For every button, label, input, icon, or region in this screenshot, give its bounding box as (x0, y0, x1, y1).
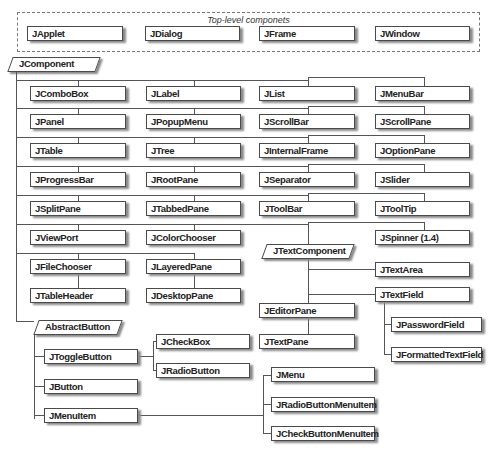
node-jbutton: JButton (44, 379, 138, 394)
node-jformattedtextfield: JFormattedTextField (391, 347, 482, 362)
connector (308, 269, 376, 270)
top-level-title: Top-level componets (18, 15, 479, 25)
node-jcomponent: JComponent (10, 57, 98, 72)
node-jmenubar: JMenuBar (375, 86, 470, 101)
node-jtogglebutton: JToggleButton (44, 349, 138, 364)
connector (308, 135, 424, 136)
connector (308, 106, 424, 107)
connector (153, 341, 154, 371)
node-jprogressbar: JProgressBar (30, 172, 126, 187)
node-jtabbedpane: JTabbedPane (146, 201, 241, 216)
node-jradiobuttonmenuitem: JRadioButtonMenuItem (271, 397, 375, 412)
node-jwindow: JWindow (375, 26, 470, 41)
connector (78, 80, 184, 81)
node-jspinner: JSpinner (1.4) (375, 230, 470, 245)
connector (16, 137, 184, 138)
connector (34, 386, 44, 387)
connector (184, 195, 308, 196)
node-jcheckbuttonmenuitem: JCheckButtonMenuItem (271, 426, 375, 441)
node-jcolorchooser: JColorChooser (146, 230, 241, 245)
connector (34, 334, 35, 419)
node-jtable: JTable (30, 143, 126, 158)
connector (16, 72, 17, 321)
node-jviewport: JViewPort (30, 230, 126, 245)
connector (263, 433, 271, 434)
node-joptionpane: JOptionPane (375, 143, 470, 158)
node-jseparator: JSeparator (259, 172, 355, 187)
node-jscrollpane: JScrollPane (375, 114, 470, 129)
node-jtextarea: JTextArea (375, 262, 470, 277)
connector (424, 164, 425, 172)
connector (194, 274, 195, 288)
node-jrootpane: JRootPane (146, 172, 241, 187)
node-abstractbutton: AbstractButton (36, 320, 120, 335)
node-jdesktoppane: JDesktopPane (146, 288, 241, 303)
node-jcheckbox: JCheckBox (156, 334, 250, 349)
connector (384, 302, 385, 355)
connector (184, 80, 308, 81)
connector (424, 193, 425, 201)
connector (16, 166, 184, 167)
connector (384, 324, 391, 325)
node-jsplitpane: JSplitPane (30, 201, 126, 216)
node-jtextfield: JTextField (375, 287, 470, 302)
connector (424, 135, 425, 143)
node-jmenuitem: JMenuItem (44, 408, 138, 423)
connector (263, 404, 271, 405)
node-jlist: JList (259, 86, 355, 101)
connector (424, 77, 425, 86)
node-jinternalframe: JInternalFrame (259, 143, 355, 158)
connector (184, 137, 308, 138)
node-jcombobox: JComboBox (30, 86, 126, 101)
connector (16, 195, 184, 196)
node-jpopupmenu: JPopupMenu (146, 114, 241, 129)
connector (34, 356, 44, 357)
node-japplet: JApplet (27, 26, 123, 41)
connector (263, 375, 271, 376)
connector (34, 415, 44, 416)
node-jscrollbar: JScrollBar (259, 114, 355, 129)
connector (184, 108, 308, 109)
node-jslider: JSlider (375, 172, 470, 187)
connector (16, 224, 184, 225)
connector (16, 321, 34, 322)
node-jtextpane: JTextPane (259, 334, 355, 349)
connector (308, 294, 376, 295)
connector (138, 415, 263, 416)
connector (308, 193, 424, 194)
node-jeditorpane: JEditorPane (259, 303, 355, 318)
node-jmenu: JMenu (271, 367, 375, 382)
node-jtextcomponent: JTextComponent (264, 244, 352, 259)
connector (138, 356, 153, 357)
node-jfilechooser: JFileChooser (30, 259, 126, 274)
node-jlabel: JLabel (146, 86, 241, 101)
connector (424, 106, 425, 114)
node-jframe: JFrame (259, 26, 355, 41)
connector (424, 222, 425, 230)
connector (308, 222, 424, 223)
connector (384, 354, 391, 355)
connector (78, 274, 79, 288)
node-jradiobutton: JRadioButton (156, 363, 250, 378)
node-jtooltip: JToolTip (375, 201, 470, 216)
node-jpanel: JPanel (30, 114, 126, 129)
connector (16, 108, 184, 109)
connector (308, 164, 424, 165)
node-jtoolbar: JToolBar (259, 201, 355, 216)
node-jlayeredpane: JLayeredPane (146, 259, 241, 274)
node-jdialog: JDialog (145, 26, 240, 41)
connector (308, 318, 309, 334)
node-jtree: JTree (146, 143, 241, 158)
connector (78, 253, 194, 254)
node-jtableheader: JTableHeader (30, 288, 126, 303)
connector (308, 77, 424, 78)
connector (184, 166, 308, 167)
connector (184, 224, 308, 225)
node-jpasswordfield: JPasswordField (391, 317, 482, 332)
